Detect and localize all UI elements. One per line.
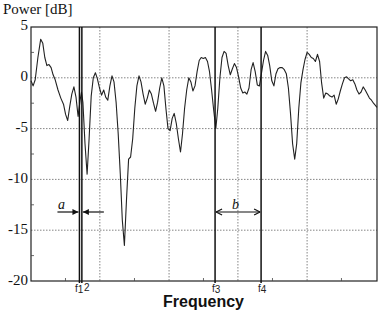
y-tick-minus5: -5 xyxy=(2,119,28,136)
x-axis-title: Frequency xyxy=(0,293,381,311)
grid-lines xyxy=(31,27,377,281)
annotation-arrows xyxy=(57,209,260,215)
annotation-b: b xyxy=(232,197,239,213)
power-spectrum-line xyxy=(31,39,377,245)
annotation-a: a xyxy=(58,197,65,213)
y-tick-5: 5 xyxy=(2,17,28,34)
minor-ticks xyxy=(31,52,341,281)
y-tick-0: 0 xyxy=(2,68,28,85)
y-tick-minus15: -15 xyxy=(2,221,28,238)
marker-label-f2: f2 xyxy=(84,282,90,293)
f2-subscript: 2 xyxy=(84,282,90,293)
y-tick-minus20: -20 xyxy=(2,272,28,289)
y-tick-minus10: -10 xyxy=(2,170,28,187)
plot-frame xyxy=(31,27,377,281)
chart-canvas xyxy=(0,0,381,315)
y-axis-title: Power [dB] xyxy=(3,1,73,18)
